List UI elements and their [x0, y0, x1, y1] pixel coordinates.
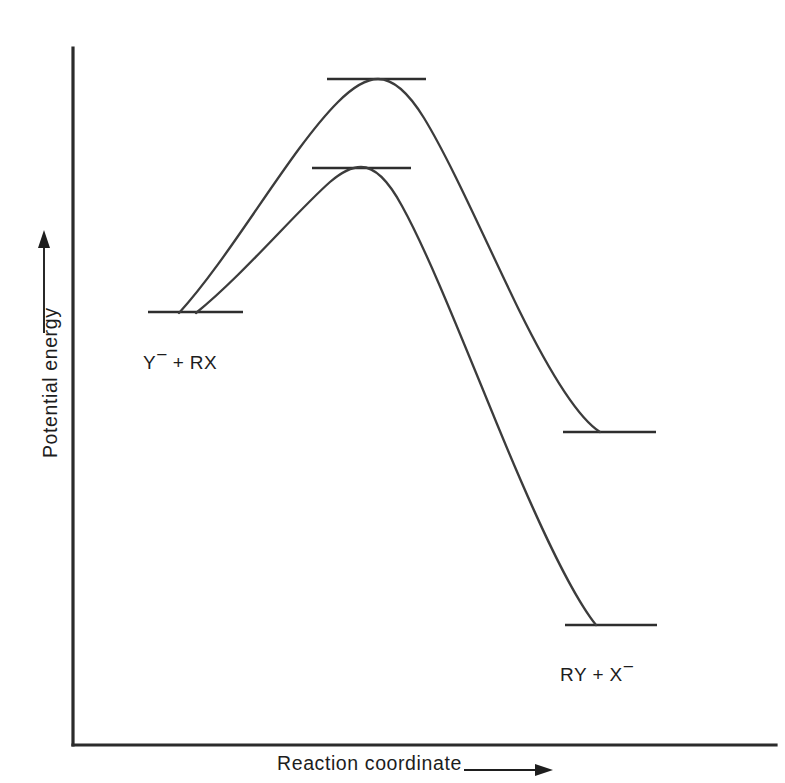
- products-partner: X: [610, 664, 623, 685]
- reactants-charge: −: [156, 344, 167, 365]
- x-axis-arrow: [464, 764, 553, 776]
- reactants-species: Y: [143, 352, 156, 373]
- pathway-high-barrier-curve: [179, 79, 600, 432]
- energy-levels-group: [148, 79, 657, 625]
- products-label: RY + X−: [560, 657, 634, 684]
- reactants-partner: RX: [190, 352, 218, 373]
- pathway-curves-group: [179, 79, 600, 625]
- x-axis-title: Reaction coordinate: [277, 754, 462, 774]
- reactants-operator: +: [173, 352, 185, 373]
- reactants-label: Y− + RX: [143, 345, 217, 372]
- products-species: RY: [560, 664, 587, 685]
- products-charge: −: [623, 656, 634, 677]
- y-axis-title: Potential energy: [41, 283, 61, 483]
- energy-diagram-figure: Y− + RX RY + X− Reaction coordinate Pote…: [0, 0, 785, 783]
- axes-group: [73, 48, 776, 745]
- pathway-low-barrier-curve: [196, 167, 596, 625]
- energy-diagram-canvas: [0, 0, 785, 783]
- products-operator: +: [593, 664, 605, 685]
